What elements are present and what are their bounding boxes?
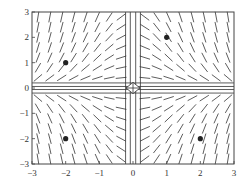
- slope-segment: [116, 77, 126, 78]
- slope-segment: [154, 13, 160, 21]
- y-tick-label: −2: [19, 134, 29, 144]
- slope-segment: [49, 22, 51, 32]
- slope-segment: [57, 75, 65, 80]
- slope-segment: [153, 135, 160, 142]
- slope-segment: [178, 134, 182, 143]
- slope-segment: [34, 95, 42, 101]
- direction-field-plot: −3−2−10123 3210−1−2−3: [0, 0, 244, 189]
- slope-segment: [140, 127, 149, 131]
- slope-segment: [203, 134, 206, 144]
- slope-segment: [37, 43, 40, 53]
- slope-segment: [84, 154, 87, 163]
- slope-segment: [106, 34, 113, 41]
- slope-segment: [140, 56, 150, 59]
- slope-segment: [46, 75, 54, 81]
- slope-segment: [226, 114, 230, 123]
- slope-segment: [59, 64, 65, 72]
- slope-segment: [165, 54, 172, 61]
- slope-segment: [179, 144, 183, 153]
- slope-segment: [105, 66, 114, 70]
- slope-segment: [37, 22, 39, 32]
- slope-segment: [116, 107, 126, 109]
- slope-segment: [37, 124, 40, 134]
- slope-segment: [153, 44, 161, 50]
- slope-segment: [177, 105, 185, 111]
- slope-segment: [166, 134, 171, 142]
- slope-segment: [47, 64, 53, 72]
- slope-segment: [57, 95, 65, 100]
- slope-segment: [153, 55, 161, 60]
- slope-segment: [49, 33, 52, 43]
- slope-segment: [117, 14, 125, 20]
- slope-segment: [61, 12, 63, 22]
- slope-segment: [95, 33, 100, 41]
- slope-segment: [106, 13, 112, 21]
- slope-segment: [188, 96, 197, 101]
- slope-segment: [224, 75, 232, 81]
- slope-segment: [105, 106, 114, 110]
- slope-segment: [34, 75, 42, 81]
- slope-segment: [141, 25, 149, 30]
- slope-segment: [35, 104, 40, 113]
- slope-segment: [215, 33, 218, 43]
- slope-segment: [214, 114, 218, 123]
- slope-segment: [84, 23, 88, 32]
- slope-segment: [153, 116, 161, 121]
- slope-segment: [60, 134, 63, 144]
- slope-segment: [177, 114, 183, 122]
- x-tick-label: −3: [27, 168, 37, 178]
- slope-segment: [61, 154, 63, 164]
- slope-segment: [140, 46, 149, 50]
- slope-segment: [82, 54, 88, 62]
- slope-segment: [166, 44, 172, 52]
- slope-segment: [215, 134, 218, 144]
- marked-point: [198, 136, 203, 141]
- slope-segment: [71, 124, 75, 133]
- slope-segment: [72, 12, 75, 22]
- slope-segment: [37, 32, 39, 42]
- slope-segment: [214, 53, 218, 62]
- slope-segment: [95, 154, 99, 163]
- slope-segment: [226, 104, 231, 113]
- slope-segment: [190, 43, 194, 52]
- slope-segment: [49, 12, 51, 22]
- slope-segment: [191, 154, 194, 164]
- slope-segment: [59, 53, 64, 62]
- slope-segment: [200, 75, 208, 80]
- slope-segment: [212, 75, 220, 81]
- y-axis-ticks: 3210−1−2−3: [19, 7, 35, 169]
- slope-segment: [140, 98, 150, 99]
- slope-segment: [105, 44, 113, 50]
- x-tick-label: 0: [131, 168, 136, 178]
- slope-segment: [117, 25, 125, 30]
- slope-segment: [140, 67, 150, 69]
- slope-segment: [212, 95, 220, 101]
- y-tick-label: 0: [25, 83, 30, 93]
- slope-segment: [202, 43, 206, 52]
- slope-segment: [84, 12, 87, 21]
- slope-segment: [72, 33, 76, 42]
- slope-segment: [37, 12, 39, 22]
- slope-segment: [227, 124, 230, 134]
- slope-segment: [202, 124, 206, 133]
- slope-segment: [106, 23, 112, 31]
- slope-segment: [152, 97, 162, 99]
- slope-segment: [154, 23, 160, 31]
- slope-segment: [227, 144, 229, 154]
- slope-segment: [95, 134, 100, 142]
- slope-segment: [93, 76, 103, 79]
- slope-segment: [154, 155, 160, 163]
- slope-segment: [104, 77, 114, 79]
- slope-segment: [165, 115, 172, 122]
- slope-segment: [49, 154, 51, 164]
- slope-segment: [59, 104, 65, 112]
- slope-segment: [215, 12, 217, 22]
- slope-segment: [37, 134, 39, 144]
- slope-segment: [70, 64, 77, 71]
- slope-segment: [189, 64, 196, 71]
- slope-segment: [203, 12, 205, 22]
- slope-segment: [60, 43, 64, 52]
- slope-segment: [188, 76, 197, 81]
- slope-segment: [140, 107, 150, 109]
- slope-segment: [190, 53, 195, 61]
